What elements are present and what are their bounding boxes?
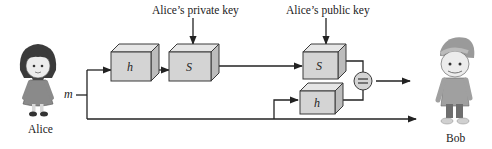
public-key-label: Alice’s public key (286, 4, 370, 17)
verify-box: S (303, 44, 346, 79)
compare-equals (354, 72, 372, 90)
digital-signature-diagram: Alice m Alice’s private key Alice’s publ… (0, 0, 492, 149)
alice-figure (20, 44, 56, 117)
sender-hash-label: h (127, 60, 133, 74)
bob-label: Bob (446, 132, 465, 144)
sender-hash-box: h (111, 44, 159, 81)
private-key-label: Alice’s private key (152, 4, 239, 17)
sign-box: S (169, 44, 219, 81)
alice-label: Alice (28, 123, 53, 135)
sign-label: S (186, 60, 192, 74)
verify-label: S (316, 59, 322, 73)
receiver-hash-label: h (314, 96, 320, 110)
bob-figure (438, 37, 474, 124)
message-label: m (64, 87, 73, 101)
receiver-hash-box: h (300, 83, 343, 114)
